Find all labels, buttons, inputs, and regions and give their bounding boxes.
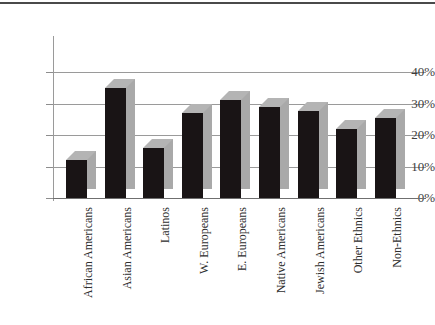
bar-front-face (259, 107, 280, 198)
bar[interactable] (298, 0, 319, 198)
bar-front-face (182, 113, 203, 198)
bar[interactable] (220, 0, 241, 198)
bar[interactable] (143, 0, 164, 198)
bar-side-face (280, 98, 289, 189)
bar-chart: 0%10%20%30%40% African AmericansAsian Am… (0, 0, 435, 325)
plot-area: 0%10%20%30%40% African AmericansAsian Am… (0, 0, 435, 325)
bar-front-face (298, 111, 319, 198)
bar[interactable] (259, 0, 280, 198)
x-axis-category-label: Non-Ethnics (391, 207, 403, 325)
y-axis-tick-label: 30% (391, 97, 435, 110)
bar-side-face (241, 91, 250, 189)
bar-side-face (126, 79, 135, 189)
x-axis-category-label: Latinos (159, 207, 171, 325)
y-axis-tick-label: 40% (391, 65, 435, 78)
bar[interactable] (182, 0, 203, 198)
bar-side-face (357, 120, 366, 189)
bar-front-face (336, 129, 357, 198)
bar-front-face (220, 100, 241, 198)
bar[interactable] (375, 0, 396, 198)
x-axis-category-label: Other Ethnics (352, 207, 364, 325)
bar-front-face (66, 160, 87, 198)
bar-front-face (143, 148, 164, 198)
x-axis-category-label: W. Europeans (198, 207, 210, 325)
bar[interactable] (105, 0, 126, 198)
x-axis-category-label: Asian Americans (121, 207, 133, 325)
x-axis-category-label: Native Americans (275, 207, 287, 325)
bar-side-face (319, 102, 328, 189)
x-axis-line (53, 198, 426, 199)
x-axis-category-label: Jewish Americans (314, 207, 326, 325)
x-axis-category-label: E. Europeans (236, 207, 248, 325)
bar-side-face (203, 104, 212, 189)
x-axis-category-label: African Americans (82, 207, 94, 325)
bar[interactable] (66, 0, 87, 198)
bar-front-face (375, 118, 396, 198)
bar[interactable] (336, 0, 357, 198)
bar-side-face (396, 109, 405, 189)
bar-front-face (105, 88, 126, 198)
y-axis-line (53, 36, 54, 201)
